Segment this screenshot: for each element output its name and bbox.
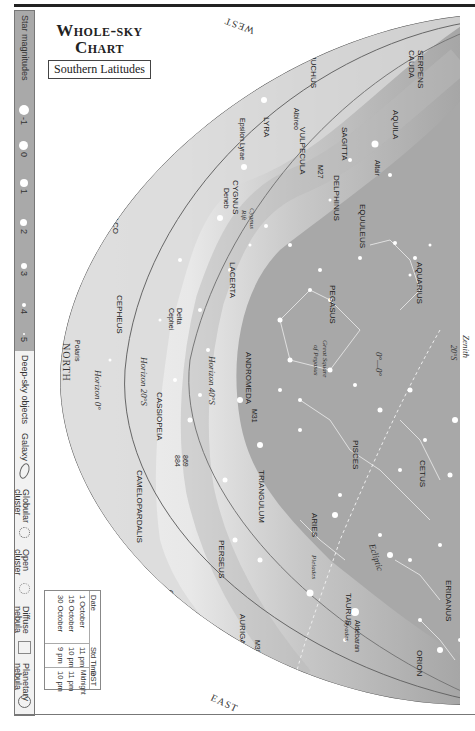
svg-text:DRACO: DRACO — [111, 205, 120, 234]
svg-text:PEGASUS: PEGASUS — [328, 285, 337, 324]
diffuse-nebula-label: Diffuse nebula — [14, 606, 30, 636]
galaxy-ellipse-icon — [18, 462, 32, 480]
svg-text:LACERTA: LACERTA — [228, 262, 237, 299]
mag-dot-0 — [19, 141, 28, 150]
svg-text:Horizon 40°S: Horizon 40°S — [207, 355, 217, 405]
svg-text:Altair: Altair — [374, 160, 381, 177]
mag-label: -1 — [19, 117, 29, 125]
mag-label: 4 — [19, 309, 29, 314]
svg-text:Capella: Capella — [166, 590, 174, 614]
svg-text:Pleiades: Pleiades — [310, 554, 318, 579]
svg-text:OPHIUCHUS: OPHIUCHUS — [309, 40, 318, 88]
table-cell: 10 pm — [67, 647, 76, 668]
open-cluster-icon — [19, 583, 30, 594]
svg-text:VULPECULA: VULPECULA — [298, 127, 307, 175]
svg-text:TRIANGULUM: TRIANGULUM — [257, 470, 266, 523]
mag-label: 5 — [19, 337, 29, 342]
svg-text:PISCES: PISCES — [351, 440, 360, 469]
legend-sidebar: Star magnitudes -1 0 1 2 3 4 5 Deep-sky … — [14, 10, 35, 716]
svg-text:869: 869 — [182, 455, 189, 467]
magnitudes-label: Star magnitudes — [20, 15, 30, 81]
star-chart-page: Whole-sky Chart Southern Latitudes — [0, 0, 475, 731]
svg-text:CYGNUS: CYGNUS — [231, 180, 240, 214]
svg-text:Horizon 20°S: Horizon 20°S — [139, 356, 149, 406]
svg-text:of Pegasus: of Pegasus — [312, 345, 320, 376]
sky-area: SERPENS CAUDA OPHIUCHUS AQUILA SAGITTA V… — [40, 0, 470, 731]
north-label: NORTH — [61, 343, 72, 382]
table-cell: 1 October — [78, 595, 87, 628]
svg-text:Aldebaran: Aldebaran — [354, 620, 361, 652]
svg-text:Epsilon Lyrae: Epsilon Lyrae — [238, 118, 246, 160]
table-header-dst: DST — [89, 671, 98, 686]
mag-dot-3 — [21, 263, 27, 269]
bottom-rule — [15, 714, 475, 715]
table-cell: 11 pm — [78, 647, 87, 667]
globular-cluster-icon — [19, 527, 30, 538]
table-header-date: Date — [89, 595, 98, 611]
svg-text:DELPHINUS: DELPHINUS — [332, 175, 341, 221]
open-cluster-label: Open cluster — [14, 549, 30, 579]
svg-text:M31: M31 — [251, 409, 258, 423]
mag-label: 0 — [19, 152, 29, 157]
planetary-nebula-icon — [18, 695, 31, 708]
svg-text:Hyades: Hyades — [343, 619, 351, 641]
svg-text:Cygnus: Cygnus — [248, 208, 256, 229]
svg-text:SERPENS: SERPENS — [416, 50, 425, 88]
mag-dot-5 — [23, 333, 25, 335]
svg-text:884: 884 — [174, 455, 181, 467]
svg-text:CAMELOPARDALIS: CAMELOPARDALIS — [135, 470, 144, 543]
mag-label: 2 — [19, 229, 29, 234]
svg-text:AURIGA: AURIGA — [238, 614, 247, 645]
svg-text:ARIES: ARIES — [310, 513, 319, 537]
svg-text:20°S: 20°S — [449, 345, 458, 360]
zenith-label: Zenith — [461, 335, 471, 359]
svg-text:LYRA: LYRA — [262, 117, 271, 138]
deep-sky-legend: Deep-sky objects Galaxy Globular cluster… — [15, 351, 34, 715]
svg-text:M38: M38 — [254, 640, 261, 654]
svg-text:AQUILA: AQUILA — [391, 110, 400, 140]
mag-dot-2 — [20, 219, 27, 226]
globular-cluster-label: Globular cluster — [14, 489, 30, 519]
mag-dot-1 — [20, 179, 28, 187]
table-cell: 9 pm — [56, 647, 65, 664]
mag-label: 1 — [19, 189, 29, 194]
svg-text:ORION: ORION — [415, 650, 424, 676]
svg-text:Great Square: Great Square — [321, 340, 329, 377]
planetary-nebula-label: Planetary nebula — [14, 663, 30, 693]
svg-text:Polaris: Polaris — [74, 340, 81, 362]
svg-text:CEPHEUS: CEPHEUS — [115, 295, 124, 334]
svg-text:Cephei: Cephei — [167, 308, 175, 331]
deep-sky-label: Deep-sky objects — [20, 355, 30, 424]
star-magnitudes-legend: Star magnitudes -1 0 1 2 3 4 5 — [15, 11, 34, 351]
svg-text:SAGITTA: SAGITTA — [340, 127, 349, 161]
svg-text:0°—0°: 0°—0° — [374, 352, 384, 377]
svg-text:Albireo: Albireo — [293, 108, 300, 130]
mag-dot-4 — [22, 303, 26, 307]
svg-text:Deneb: Deneb — [223, 188, 230, 209]
svg-text:M27: M27 — [317, 165, 324, 179]
svg-text:Vega: Vega — [241, 80, 249, 96]
svg-text:EQUULEUS: EQUULEUS — [358, 204, 367, 248]
svg-text:CETUS: CETUS — [418, 460, 427, 487]
table-cell: 11 pm — [67, 671, 76, 691]
table-cell: 15 October — [67, 595, 76, 632]
svg-text:ERIDANUS: ERIDANUS — [444, 580, 453, 621]
svg-text:PERSEUS: PERSEUS — [217, 540, 226, 578]
mag-dot--1 — [19, 105, 29, 115]
table-cell: Midnight — [80, 670, 87, 695]
svg-text:Delta: Delta — [176, 308, 183, 324]
time-table: Date Std Time DST 1 October 11 pm Midnig… — [44, 590, 101, 690]
svg-text:AQUARIUS: AQUARIUS — [415, 262, 424, 304]
svg-text:Rift: Rift — [240, 209, 248, 221]
west-label: WEST — [223, 15, 256, 36]
table-cell: 30 October — [56, 595, 65, 632]
svg-text:ANDROMEDA: ANDROMEDA — [244, 352, 253, 405]
diffuse-nebula-square-icon — [18, 641, 31, 654]
svg-text:M36: M36 — [269, 668, 276, 682]
mag-label: 3 — [19, 271, 29, 276]
svg-text:CAUDA: CAUDA — [407, 50, 416, 79]
svg-text:CASSIOPEIA: CASSIOPEIA — [155, 392, 164, 441]
east-label: EAST — [209, 692, 240, 714]
table-cell: 10 pm — [56, 671, 65, 692]
svg-text:Horizon 0°: Horizon 0° — [93, 369, 103, 410]
